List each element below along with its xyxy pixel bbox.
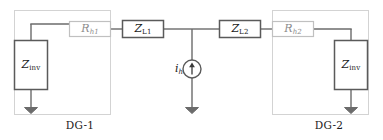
ground-symbol-dg-2 bbox=[345, 108, 358, 114]
current-source-label: ih bbox=[175, 63, 183, 75]
dg-1-caption: DG-1 bbox=[66, 120, 94, 131]
ground-symbol-source bbox=[186, 108, 199, 114]
dg-1-resistor-label: Rh1 bbox=[81, 23, 98, 35]
dg-2-inverter-impedance-label: Zinv bbox=[341, 59, 360, 71]
circuit-diagram-figure: Zinv Rh1 ZL1 ih ZL2 Rh2 Zinv DG-1 DG-2 bbox=[0, 0, 383, 140]
dg-2-resistor-label: Rh2 bbox=[284, 23, 301, 35]
line-impedance-1-label: ZL1 bbox=[134, 23, 151, 35]
line-impedance-2-label: ZL2 bbox=[231, 23, 248, 35]
ground-symbol-dg-1 bbox=[25, 108, 38, 114]
dg-1-inverter-impedance-label: Zinv bbox=[21, 59, 40, 71]
dg-2-caption: DG-2 bbox=[315, 120, 343, 131]
